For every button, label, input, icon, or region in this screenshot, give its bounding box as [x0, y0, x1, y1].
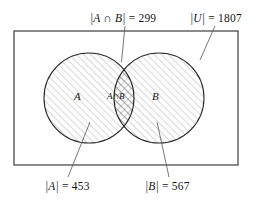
universe-count-equals: = [208, 12, 215, 24]
set-b-count-expression: |B| [145, 180, 159, 192]
set-a-label: A [74, 90, 81, 102]
intersection-label: A∩B [107, 91, 125, 101]
set-b-count-value: 567 [172, 180, 190, 192]
universe-count-expression: |U| [190, 12, 205, 24]
intersection-count-value: 299 [138, 12, 156, 24]
set-a-count-value: 453 [72, 180, 90, 192]
set-b-label: B [152, 90, 159, 102]
intersection-count-annotation: |A ∩ B| = 299 [90, 12, 156, 24]
set-a-count-annotation: |A| = 453 [45, 180, 90, 192]
venn-diagram [0, 0, 259, 205]
universe-count-value: 1807 [218, 12, 242, 24]
intersection-count-expression: |A ∩ B| [90, 12, 126, 24]
set-a-count-equals: = [62, 180, 69, 192]
set-b-count-annotation: |B| = 567 [145, 180, 190, 192]
intersection-count-equals: = [129, 12, 136, 24]
set-a-count-expression: |A| [45, 180, 59, 192]
set-b-count-equals: = [162, 180, 169, 192]
universe-count-annotation: |U| = 1807 [190, 12, 242, 24]
